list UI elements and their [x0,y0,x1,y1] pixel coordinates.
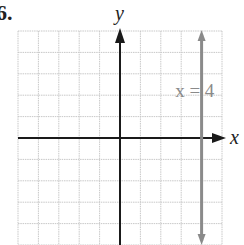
y-axis-label: y [113,2,124,25]
coordinate-plane: x y x = 4 [0,0,244,245]
line-equation-label: x = 4 [175,80,215,101]
y-axis-arrow-icon [115,28,125,43]
axes: x y [18,2,239,245]
x-axis-arrow-icon [212,133,226,143]
line-up-arrow-icon [198,30,206,41]
x-axis-label: x [229,126,239,148]
graph-figure: 6. x y x = 4 [0,0,244,245]
line-down-arrow-icon [198,234,206,245]
